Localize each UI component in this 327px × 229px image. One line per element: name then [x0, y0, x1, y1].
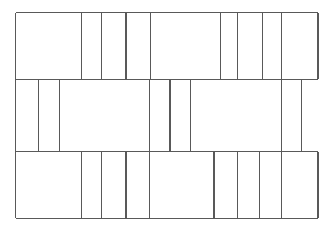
canvas-background [0, 0, 327, 229]
figure-canvas [0, 0, 327, 229]
partition-diagram [0, 0, 327, 229]
